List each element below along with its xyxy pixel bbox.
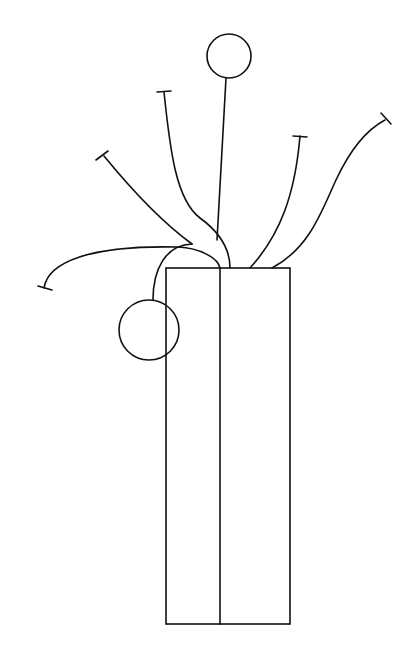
stem-right-tip <box>293 136 307 137</box>
stem-center-left-tip <box>157 91 171 92</box>
vase-rectangle <box>166 268 290 624</box>
stem-far-right <box>272 120 385 268</box>
vase-drawing <box>0 0 410 652</box>
stem-left <box>104 156 192 244</box>
top-circle-flower-icon <box>207 34 251 78</box>
stem-center <box>217 78 226 240</box>
side-flower-stem <box>153 244 192 300</box>
stem-far-right-tip <box>381 113 391 124</box>
side-circle-flower-icon <box>119 300 179 360</box>
stem-right <box>250 136 300 268</box>
